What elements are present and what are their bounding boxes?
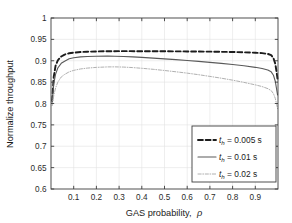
y-tick-label: 0.65 [31, 164, 47, 173]
svg-text:GAS probability, ρ: GAS probability, ρ [126, 208, 203, 218]
y-tick-label: 0.8 [35, 100, 47, 109]
x-tick-label: 0.1 [68, 193, 80, 202]
x-tick-label: 0.5 [159, 193, 171, 202]
y-axis-title: Normalize throughput [5, 60, 15, 148]
x-tick-labels: 0.10.20.30.40.50.60.70.80.9 [68, 193, 261, 202]
x-tick-label: 0.9 [250, 193, 262, 202]
y-tick-label: 0.95 [31, 35, 47, 44]
y-tick-label: 0.85 [31, 78, 47, 87]
y-tick-label: 0.9 [35, 57, 47, 66]
legend-label-1: th = 0.005 s [219, 135, 262, 146]
legend-value: = 0.01 s [225, 152, 257, 162]
x-tick-label: 0.6 [182, 193, 194, 202]
legend-label-2: th = 0.01 s [219, 152, 257, 163]
y-tick-label: 0.75 [31, 121, 47, 130]
legend-value: = 0.005 s [225, 135, 262, 145]
x-tick-label: 0.3 [113, 193, 125, 202]
chart-canvas: 0.10.20.30.40.50.60.70.80.9 0.60.650.70.… [0, 0, 292, 223]
x-axis-title-symbol: ρ [196, 208, 202, 218]
x-axis-title-text: GAS probability, [126, 208, 192, 218]
x-axis-title: GAS probability, ρ [126, 208, 203, 218]
x-tick-label: 0.8 [227, 193, 239, 202]
y-tick-label: 1 [42, 14, 47, 23]
figure-container: 0.10.20.30.40.50.60.70.80.9 0.60.650.70.… [0, 0, 292, 223]
y-tick-label: 0.7 [35, 142, 47, 151]
legend-label-3: th = 0.02 s [219, 169, 257, 180]
x-tick-label: 0.4 [136, 193, 148, 202]
legend-value: = 0.02 s [225, 169, 257, 179]
x-tick-label: 0.7 [204, 193, 216, 202]
y-tick-label: 0.6 [35, 185, 47, 194]
x-tick-label: 0.2 [91, 193, 103, 202]
svg-text:Normalize throughput: Normalize throughput [5, 60, 15, 148]
legend[interactable]: th = 0.005 sth = 0.01 sth = 0.02 s [192, 126, 276, 182]
